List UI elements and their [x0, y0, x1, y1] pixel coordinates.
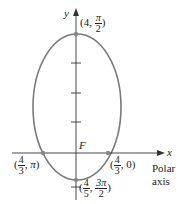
y-axis-label: y	[64, 8, 69, 19]
point-label-left: (43, π)	[14, 155, 39, 176]
vertex-bottom	[74, 178, 78, 182]
y-axis-arrow-icon	[73, 8, 79, 16]
x-axis-label: x	[167, 147, 172, 158]
x-axis-arrow-icon	[157, 150, 165, 156]
point-left	[41, 151, 45, 155]
polar-ellipse-diagram: y x F (4, π2) (43, 0) (43, π) (45, 3π2) …	[0, 0, 183, 204]
point-label-bottom: (45, 3π2)	[79, 178, 111, 199]
polar-axis-label-line1: Polar	[152, 163, 175, 174]
polar-axis-label-line2: axis	[152, 176, 170, 187]
vertex-top	[74, 32, 78, 36]
point-label-right: (43, 0)	[110, 155, 135, 176]
ellipse-curve	[33, 34, 121, 180]
focus-label: F	[79, 140, 86, 151]
point-label-top: (4, π2)	[80, 13, 105, 34]
